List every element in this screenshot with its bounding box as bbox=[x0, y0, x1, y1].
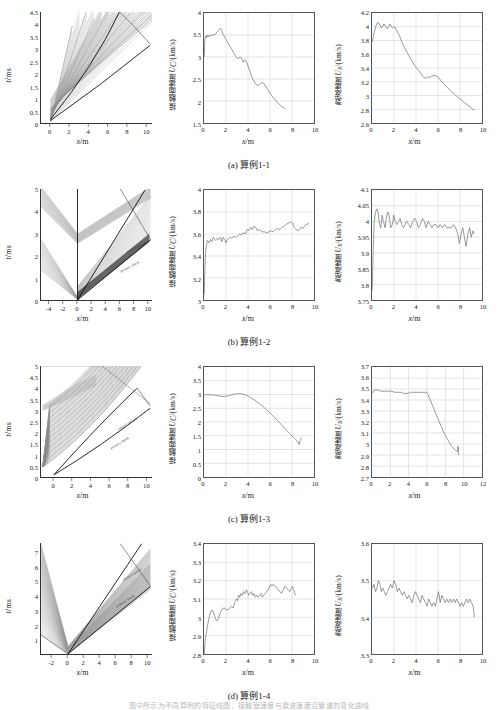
y-tick-labels: 2.82.933.13.23.33.4 bbox=[182, 543, 202, 655]
y-tick: 3.1 bbox=[193, 596, 201, 603]
figure-row-2: t/ms012345contact surfaceprimary shock-4… bbox=[0, 177, 498, 354]
y-axis-label-text: 激波速度 Us/(km/s) bbox=[335, 398, 344, 460]
y-tick: 7 bbox=[35, 548, 38, 555]
y-tick: 3.2 bbox=[193, 275, 201, 282]
y-tick: 3 bbox=[198, 53, 201, 60]
y-tick: 1 bbox=[35, 96, 38, 103]
figure-row-1: t/ms00.511.522.533.544.50246810x/m接触面速度 … bbox=[0, 0, 498, 177]
x-tick: 8 bbox=[291, 480, 294, 487]
x-tick: 2 bbox=[388, 480, 391, 487]
y-axis-label-text: 激波速度 Us/(km/s) bbox=[335, 44, 344, 106]
x-tick: 4 bbox=[89, 482, 92, 489]
y-tick-labels: 1234567 bbox=[19, 543, 39, 655]
y-tick: 3.9 bbox=[361, 250, 369, 257]
plot-mid-row2: 接触面速度 UC/(km/s)33.23.43.63.840246810x/m bbox=[165, 177, 331, 327]
x-tick: 0 bbox=[201, 303, 204, 310]
y-tick: 4 bbox=[35, 208, 38, 215]
x-axis-label: x/m bbox=[331, 314, 498, 323]
y-tick: 1 bbox=[35, 637, 38, 644]
y-tick: 4 bbox=[198, 186, 201, 193]
x-tick: 4 bbox=[246, 126, 249, 133]
plot-left-row1: t/ms00.511.522.533.544.50246810x/m bbox=[0, 0, 165, 150]
x-tick: -2 bbox=[48, 659, 54, 666]
x-tick: 2 bbox=[224, 303, 227, 310]
y-tick: 3.5 bbox=[30, 396, 38, 403]
plot-area bbox=[371, 543, 483, 655]
x-tick: 8 bbox=[459, 303, 462, 310]
y-tick: 2.5 bbox=[193, 76, 201, 83]
x-tick: 10 bbox=[312, 657, 319, 664]
y-tick: 3 bbox=[35, 230, 38, 237]
y-tick: 3.3 bbox=[193, 558, 201, 565]
y-axis-label-text: t/ms bbox=[5, 422, 13, 436]
y-tick: 2 bbox=[198, 419, 201, 426]
y-axis-label-text: 接触面速度 UC/(km/s) bbox=[169, 393, 178, 465]
y-axis-label-text: 接触面速度 UC/(km/s) bbox=[169, 216, 178, 288]
plot-area bbox=[203, 12, 315, 124]
y-axis-label: 激波速度 Us/(km/s) bbox=[333, 0, 346, 150]
x-tick: 8 bbox=[291, 657, 294, 664]
y-tick: 1.5 bbox=[30, 83, 38, 90]
y-tick: 3.4 bbox=[193, 253, 201, 260]
x-tick: -2 bbox=[60, 305, 66, 312]
y-tick: 3.8 bbox=[361, 37, 369, 44]
plot-area: contact surfaceprimary shock bbox=[40, 366, 152, 478]
y-tick: 3.5 bbox=[193, 31, 201, 38]
y-tick: 3.3 bbox=[361, 652, 369, 659]
y-tick: 4 bbox=[198, 363, 201, 370]
y-tick: 2 bbox=[35, 253, 38, 260]
x-tick: 10 bbox=[480, 126, 487, 133]
y-axis-label-text: 激波速度 Us/(km/s) bbox=[335, 221, 344, 283]
y-tick: 2.5 bbox=[193, 405, 201, 412]
subfigure-caption: (a) 算例1-1 bbox=[0, 158, 498, 171]
x-tick: 6 bbox=[437, 657, 440, 664]
x-tick: 0 bbox=[369, 303, 372, 310]
plot-area bbox=[371, 366, 483, 478]
x-tick: 6 bbox=[106, 128, 109, 135]
x-tick: 4 bbox=[407, 480, 410, 487]
y-tick: 1 bbox=[35, 452, 38, 459]
y-tick: 3.2 bbox=[361, 419, 369, 426]
y-tick: 2 bbox=[198, 98, 201, 105]
y-tick: 5 bbox=[35, 578, 38, 585]
x-tick: 0 bbox=[201, 657, 204, 664]
y-axis-label-text: 接触面速度 UC/(km/s) bbox=[169, 39, 178, 111]
y-tick: 3 bbox=[366, 441, 369, 448]
y-tick: 3 bbox=[198, 614, 201, 621]
y-tick: 3.4 bbox=[361, 396, 369, 403]
figure-bottom-note: 图中所示为不同算例的特征线图、接触面速度与激波速度沿管道的变化曲线 bbox=[0, 700, 498, 710]
y-tick: 6 bbox=[35, 563, 38, 570]
plot-area bbox=[203, 366, 315, 478]
y-tick: 3.5 bbox=[193, 377, 201, 384]
x-tick: 10 bbox=[312, 480, 319, 487]
y-tick: 4 bbox=[366, 218, 369, 225]
y-tick: 4 bbox=[35, 21, 38, 28]
plot-right-row4: 激波速度 Us/(km/s)3.33.43.53.60246810x/m bbox=[331, 531, 498, 681]
plot-left-row4: t/ms1234567contact surfaceprimary shock-… bbox=[0, 531, 165, 681]
y-tick: 3.6 bbox=[361, 374, 369, 381]
x-tick: 6 bbox=[269, 657, 272, 664]
y-tick: 2.7 bbox=[361, 475, 369, 482]
x-tick: 0 bbox=[75, 305, 78, 312]
y-tick: 3.2 bbox=[193, 577, 201, 584]
x-tick: 2 bbox=[82, 659, 85, 666]
y-tick: 4 bbox=[366, 23, 369, 30]
y-axis-label: 激波速度 Us/(km/s) bbox=[333, 354, 346, 504]
y-tick: 4 bbox=[35, 385, 38, 392]
x-tick: 10 bbox=[312, 303, 319, 310]
x-tick: 0 bbox=[51, 482, 54, 489]
plot-right-row3: 激波速度 Us/(km/s)2.72.82.933.13.23.33.43.53… bbox=[331, 354, 498, 504]
y-tick: 3 bbox=[366, 93, 369, 100]
y-tick: 3.5 bbox=[30, 33, 38, 40]
y-tick: 1.5 bbox=[193, 433, 201, 440]
y-axis-label: 激波速度 Us/(km/s) bbox=[333, 531, 346, 681]
x-tick: 10 bbox=[144, 305, 151, 312]
y-tick-labels: 00.511.522.533.54 bbox=[182, 366, 202, 478]
y-tick: 2 bbox=[35, 622, 38, 629]
y-tick: 2.8 bbox=[361, 107, 369, 114]
x-tick: 6 bbox=[437, 126, 440, 133]
y-axis-label: t/ms bbox=[2, 0, 15, 150]
y-tick-labels: 2.62.833.23.43.63.844.2 bbox=[350, 12, 370, 124]
y-axis-label-text: t/ms bbox=[5, 68, 13, 82]
